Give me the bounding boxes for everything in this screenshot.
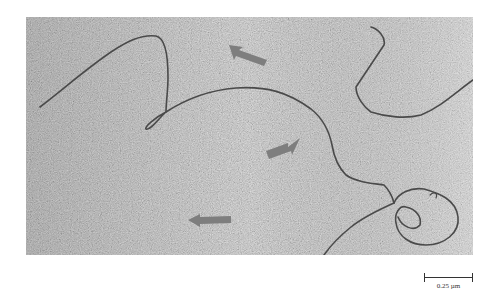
scale-bar-tick-right [472,273,473,282]
dna-micrograph [26,17,473,255]
scale-bar: 0.25 µm [424,272,473,290]
scale-bar-line [424,277,473,278]
scale-bar-label: 0.25 µm [424,282,473,290]
